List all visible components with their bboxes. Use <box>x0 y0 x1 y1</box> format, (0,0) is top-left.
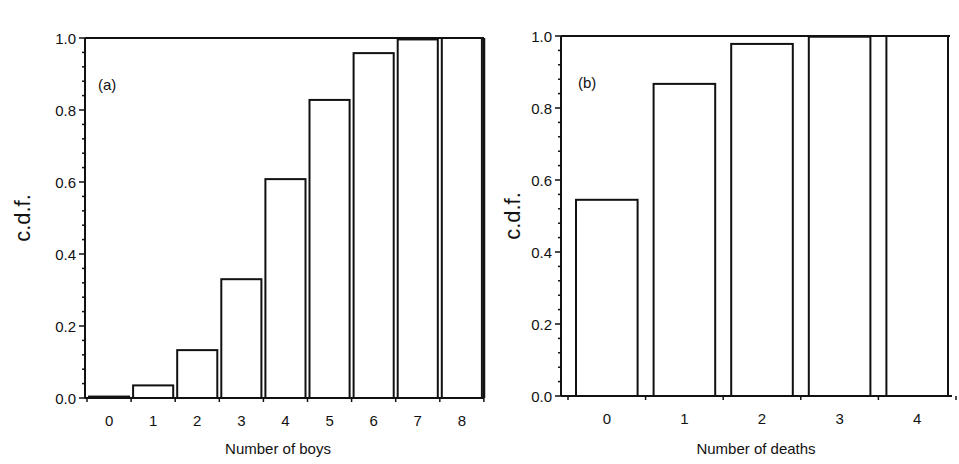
chart-figure: 0.00.20.40.60.81.0 012345678 (a) Number … <box>0 0 959 464</box>
panel-label: (b) <box>578 74 596 91</box>
bar-5 <box>310 100 350 398</box>
x-tick-label: 1 <box>149 412 157 429</box>
bar-0 <box>576 200 638 396</box>
y-tick-label: 0.8 <box>531 100 552 117</box>
y-tick-label: 0.8 <box>55 102 76 119</box>
bar-8 <box>442 38 482 398</box>
x-tick-label: 0 <box>603 410 611 427</box>
y-tick-label: 0.2 <box>55 318 76 335</box>
panel-a-boys-cdf: 0.00.20.40.60.81.0 012345678 (a) Number … <box>10 30 484 457</box>
x-tick-label: 0 <box>105 412 113 429</box>
x-tick-label: 6 <box>369 412 377 429</box>
y-tick-label: 1.0 <box>55 30 76 47</box>
x-axis-title: Number of boys <box>225 440 331 457</box>
x-axis-title: Number of deaths <box>696 440 815 457</box>
bar-4 <box>265 179 305 398</box>
y-tick-label: 0.0 <box>531 388 552 405</box>
x-tick-label: 3 <box>835 410 843 427</box>
x-ticks: 01234 <box>568 396 956 427</box>
panel-label: (a) <box>98 76 116 93</box>
y-axis-title: c.d.f. <box>10 194 35 242</box>
x-tick-label: 7 <box>414 412 422 429</box>
x-tick-label: 2 <box>193 412 201 429</box>
x-tick-label: 2 <box>758 410 766 427</box>
bar-6 <box>354 53 394 398</box>
y-ticks: 0.00.20.40.60.81.0 <box>531 28 561 405</box>
x-tick-label: 8 <box>458 412 466 429</box>
bars-group <box>576 36 948 396</box>
x-tick-label: 1 <box>680 410 688 427</box>
y-tick-label: 0.4 <box>531 244 552 261</box>
y-tick-label: 0.6 <box>55 174 76 191</box>
panel-b-deaths-cdf: 0.00.20.40.60.81.0 01234 (b) Number of d… <box>500 28 956 457</box>
bar-2 <box>731 44 793 396</box>
bar-3 <box>809 37 871 396</box>
y-axis-title: c.d.f. <box>500 192 525 240</box>
bar-2 <box>177 350 217 398</box>
y-tick-label: 0.0 <box>55 390 76 407</box>
x-tick-label: 5 <box>325 412 333 429</box>
bar-1 <box>654 84 716 396</box>
x-tick-label: 3 <box>237 412 245 429</box>
bar-3 <box>221 279 261 398</box>
x-tick-label: 4 <box>913 410 921 427</box>
y-tick-label: 0.4 <box>55 246 76 263</box>
x-tick-label: 4 <box>281 412 289 429</box>
bars-group <box>89 38 482 398</box>
x-ticks: 012345678 <box>87 398 484 429</box>
y-tick-label: 1.0 <box>531 28 552 45</box>
y-tick-label: 0.2 <box>531 316 552 333</box>
y-ticks: 0.00.20.40.60.81.0 <box>55 30 85 407</box>
bar-1 <box>133 385 173 398</box>
y-tick-label: 0.6 <box>531 172 552 189</box>
bar-7 <box>398 39 438 398</box>
bar-4 <box>886 36 948 396</box>
